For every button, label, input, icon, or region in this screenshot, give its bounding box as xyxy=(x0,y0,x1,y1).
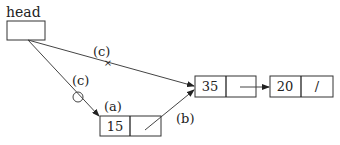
node-35-value: 35 xyxy=(202,79,219,94)
null-pointer-marker: / xyxy=(315,79,320,94)
node-20: 20 / xyxy=(270,76,333,97)
edge-label-c-lower: (c) xyxy=(72,73,89,88)
node-15-value: 15 xyxy=(107,119,124,134)
edge-label-b: (b) xyxy=(176,111,194,126)
node-15: 15 xyxy=(100,116,161,136)
edge-label-c-top: (c) xyxy=(93,44,110,59)
edge-label-a: (a) xyxy=(104,99,122,114)
linked-list-diagram: head × (c) (c) (a) 15 (b) 35 20 / xyxy=(0,0,340,145)
node-20-value: 20 xyxy=(277,79,294,94)
head-label: head xyxy=(6,4,41,20)
head-pointer-box xyxy=(7,21,45,40)
